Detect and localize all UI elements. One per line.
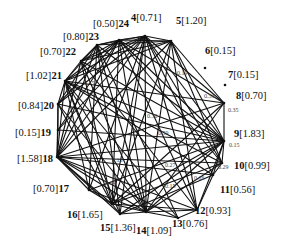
- node-label-11: 11[0.56]: [220, 185, 255, 196]
- node-value: [0.70]: [33, 183, 58, 194]
- node-label-5: 5[1.20]: [176, 16, 207, 27]
- node-label-14: 14[1.09]: [136, 226, 172, 237]
- node-id: 22: [65, 46, 76, 57]
- node-id: 23: [88, 31, 99, 42]
- edge-weight: 0.15: [84, 80, 95, 86]
- edge-weight: 0.30: [147, 113, 158, 119]
- node-value: [0.50]: [93, 18, 118, 29]
- node-id: 10: [234, 160, 245, 171]
- node-label-24: [0.50]24: [93, 19, 129, 30]
- node-label-16: 16[1.65]: [67, 210, 103, 221]
- node-19: [57, 129, 60, 132]
- node-value: [1.36]: [111, 222, 136, 233]
- node-20: [57, 103, 60, 106]
- node-6: [204, 67, 207, 70]
- node-label-7: 7[0.15]: [228, 70, 259, 81]
- edge-weight: 0.29: [218, 164, 229, 170]
- node-15: [119, 213, 122, 216]
- node-9: [223, 140, 226, 143]
- node-value: [0.56]: [230, 184, 255, 195]
- node-value: [0.93]: [206, 205, 231, 216]
- node-value: [1.83]: [239, 128, 264, 139]
- node-id: 17: [58, 183, 69, 194]
- node-id: 21: [51, 70, 62, 81]
- node-23: [96, 44, 99, 47]
- node-id: 18: [42, 153, 53, 164]
- node-22: [80, 60, 83, 63]
- node-value: [0.15]: [15, 127, 40, 138]
- edge-weight: 0.13: [112, 157, 123, 163]
- node-id: 11: [220, 184, 230, 195]
- node-value: [0.76]: [183, 218, 208, 229]
- edge-weight: 0.53: [204, 93, 215, 99]
- node-24: [118, 39, 121, 42]
- node-label-21: [1.02]21: [26, 71, 62, 82]
- node-value: [0.70]: [241, 90, 266, 101]
- node-label-23: [0.80]23: [63, 32, 99, 43]
- node-value: [1.58]: [17, 153, 42, 164]
- node-label-18: [1.58]18: [17, 154, 53, 165]
- node-label-13: 13[0.76]: [172, 219, 208, 230]
- node-11: [212, 174, 215, 177]
- node-value: [0.70]: [40, 46, 65, 57]
- node-label-8: 8[0.70]: [236, 91, 267, 102]
- node-label-22: [0.70]22: [40, 47, 76, 58]
- edge-weight: 0.27: [165, 162, 176, 168]
- node-16: [111, 203, 114, 206]
- node-id: 13: [172, 218, 183, 229]
- node-17: [88, 189, 91, 192]
- edge-10-24: [119, 40, 222, 163]
- edge-weight: 0.59: [158, 130, 169, 136]
- node-value: [1.20]: [181, 15, 206, 26]
- node-id: 15: [100, 222, 111, 233]
- edge-weight: 0.16: [194, 175, 205, 181]
- node-label-9: 9[1.83]: [234, 129, 265, 140]
- node-label-20: [0.84]20: [18, 101, 54, 112]
- edge-weight: 0.15: [165, 183, 176, 189]
- node-value: [0.15]: [233, 69, 258, 80]
- node-label-6: 6[0.15]: [205, 46, 236, 57]
- node-value: [0.71]: [136, 12, 161, 23]
- node-18: [56, 156, 59, 159]
- node-4: [144, 35, 147, 38]
- node-value: [0.84]: [18, 100, 43, 111]
- node-label-17: [0.70]17: [33, 184, 69, 195]
- node-label-15: 15[1.36]: [100, 223, 136, 234]
- edge-weight: 0.15: [229, 142, 240, 148]
- edge-weight: 0.14: [105, 180, 116, 186]
- graph-canvas: [0, 0, 284, 247]
- node-label-19: [0.15]19: [15, 128, 51, 139]
- node-21: [64, 80, 67, 83]
- node-value: [1.09]: [147, 225, 172, 236]
- node-value: [0.80]: [63, 31, 88, 42]
- node-14: [145, 211, 148, 214]
- node-label-12: 12[0.93]: [195, 206, 231, 217]
- node-label-10: 10[0.99]: [234, 161, 270, 172]
- edge-weight: 0.15: [124, 37, 135, 43]
- node-id: 24: [118, 18, 129, 29]
- node-value: [1.65]: [78, 209, 103, 220]
- node-id: 16: [67, 209, 78, 220]
- node-id: 12: [195, 205, 206, 216]
- node-id: 14: [136, 225, 147, 236]
- node-7: [224, 84, 227, 87]
- node-5: [170, 40, 173, 43]
- edge-weight: 0.19: [177, 70, 188, 76]
- node-value: [0.99]: [245, 160, 270, 171]
- node-id: 20: [43, 100, 54, 111]
- node-value: [1.02]: [26, 70, 51, 81]
- node-8: [223, 102, 226, 105]
- edge-weight: 0.35: [228, 107, 239, 113]
- node-value: [0.15]: [210, 45, 235, 56]
- node-label-4: 4[0.71]: [131, 13, 162, 24]
- node-id: 19: [40, 127, 51, 138]
